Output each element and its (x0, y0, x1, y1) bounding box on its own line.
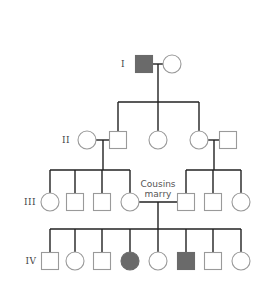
female-circle-II-1 (78, 131, 96, 149)
male-square-IV-7 (205, 253, 222, 270)
female-circle-IV-8 (232, 252, 250, 270)
male-square-IV-6-affected (178, 253, 195, 270)
female-circle-I-2 (163, 55, 181, 73)
female-circle-IV-5 (149, 252, 167, 270)
generation-label-IV: IV (25, 256, 36, 266)
male-square-III-3 (94, 194, 111, 211)
female-circle-II-3 (149, 131, 167, 149)
generation-label-II: II (62, 135, 70, 145)
individuals (41, 55, 250, 270)
male-square-III-6 (205, 194, 222, 211)
connector-lines (50, 64, 241, 253)
male-square-II-5 (220, 132, 237, 149)
pedigree-chart (0, 0, 265, 300)
male-square-III-2 (67, 194, 84, 211)
male-square-IV-1 (42, 253, 59, 270)
female-circle-III-1 (41, 193, 59, 211)
female-circle-IV-4-affected (121, 252, 139, 270)
male-square-I-1-affected (136, 56, 153, 73)
male-square-II-2 (110, 132, 127, 149)
male-square-IV-3 (94, 253, 111, 270)
female-circle-II-4 (190, 131, 208, 149)
generation-label-I: I (121, 59, 125, 69)
female-circle-III-7 (232, 193, 250, 211)
annotation-line-1: Cousins (128, 179, 188, 189)
female-circle-IV-2 (66, 252, 84, 270)
generation-label-III: III (24, 197, 36, 207)
cousins-marry-annotation: Cousins marry (128, 179, 188, 199)
annotation-line-2: marry (128, 189, 188, 199)
